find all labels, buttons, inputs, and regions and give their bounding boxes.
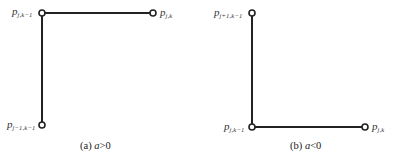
label-b-pjp1-km1: pj+1,k−1 — [214, 7, 243, 20]
node-b-pjp1-km1 — [249, 10, 255, 16]
label-a-pjm1-km1: pj−1,k−1 — [7, 119, 36, 132]
panel-b-edges — [252, 13, 365, 127]
label-subscript: j−1,k−1 — [13, 124, 36, 131]
caption-prefix: (a) — [80, 140, 94, 151]
label-a-pj-k: pj,k — [160, 7, 172, 20]
node-a-pj-km1 — [39, 10, 45, 16]
caption-relation: <0 — [310, 140, 321, 151]
label-subscript: j,k−1 — [230, 126, 245, 133]
caption-b: (b) a<0 — [290, 141, 321, 152]
node-b-pj-km1 — [249, 124, 255, 130]
caption-relation: >0 — [100, 140, 111, 151]
node-a-pjm1-km1 — [39, 122, 45, 128]
panel-a-edges — [42, 13, 153, 125]
panel-a-nodes — [39, 10, 156, 128]
panel-b-nodes — [249, 10, 368, 130]
stencil-diagram — [0, 0, 394, 159]
node-a-pj-k — [150, 10, 156, 16]
caption-a: (a) a>0 — [80, 141, 111, 152]
label-subscript: j,k — [378, 126, 385, 133]
caption-prefix: (b) — [290, 140, 305, 151]
label-subscript: j+1,k−1 — [220, 12, 243, 19]
label-a-pj-km1: pj,k−1 — [12, 6, 32, 19]
node-b-pj-k — [362, 124, 368, 130]
label-subscript: j,k−1 — [18, 11, 33, 18]
label-b-pj-km1: pj,k−1 — [224, 121, 244, 134]
label-subscript: j,k — [166, 12, 173, 19]
label-b-pj-k: pj,k — [372, 121, 384, 134]
